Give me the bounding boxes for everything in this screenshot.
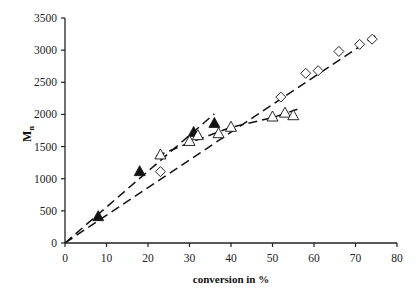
y-tick-label: 0 xyxy=(51,237,57,249)
open-diamond-marker xyxy=(301,68,311,78)
y-tick-label: 1500 xyxy=(34,141,57,153)
y-tick-label: 2000 xyxy=(34,108,57,120)
x-tick-label: 80 xyxy=(391,252,403,264)
data-markers xyxy=(93,34,377,220)
open-triangle-marker xyxy=(155,149,166,159)
y-tick-label: 1000 xyxy=(34,173,57,185)
filled-triangle-marker xyxy=(93,211,104,221)
open-triangle-marker xyxy=(279,107,290,117)
y-tick-label: 500 xyxy=(40,205,58,217)
y-axis-ticks: 0500100015002000250030003500 xyxy=(34,12,65,249)
y-tick-label: 3500 xyxy=(34,12,57,24)
x-tick-label: 20 xyxy=(142,252,154,264)
y-axis-title: Mn xyxy=(20,126,36,142)
trendlines xyxy=(65,35,376,243)
trendline xyxy=(156,109,297,156)
y-axis-title-main: M xyxy=(20,131,34,142)
x-tick-label: 40 xyxy=(225,252,237,264)
open-diamond-marker xyxy=(313,66,323,76)
y-tick-label: 3000 xyxy=(34,44,57,56)
svg-text:Mn: Mn xyxy=(20,126,36,142)
x-tick-label: 30 xyxy=(184,252,196,264)
x-tick-label: 10 xyxy=(101,252,113,264)
open-diamond-marker xyxy=(334,46,344,56)
x-tick-label: 50 xyxy=(267,252,279,264)
y-tick-label: 2500 xyxy=(34,76,57,88)
open-diamond-marker xyxy=(355,39,365,49)
chart: 0500100015002000250030003500 01020304050… xyxy=(0,0,418,295)
x-tick-label: 70 xyxy=(350,252,362,264)
open-diamond-marker xyxy=(155,167,165,177)
trendline xyxy=(65,35,376,243)
x-tick-label: 60 xyxy=(308,252,320,264)
filled-triangle-marker xyxy=(209,117,220,127)
x-axis-ticks: 01020304050607080 xyxy=(62,243,403,264)
filled-triangle-marker xyxy=(134,166,145,176)
y-axis-title-sub: n xyxy=(27,126,36,131)
open-diamond-marker xyxy=(367,34,377,44)
x-tick-label: 0 xyxy=(62,252,68,264)
x-axis-title: conversion in % xyxy=(193,273,269,285)
